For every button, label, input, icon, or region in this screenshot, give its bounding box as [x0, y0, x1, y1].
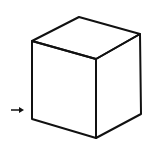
cube-top-face: [32, 17, 140, 59]
arrow-icon: [11, 107, 24, 113]
cube: [32, 17, 141, 138]
cube-diagram: [0, 0, 156, 155]
cube-left-face: [32, 41, 96, 138]
cube-right-face: [96, 34, 141, 138]
